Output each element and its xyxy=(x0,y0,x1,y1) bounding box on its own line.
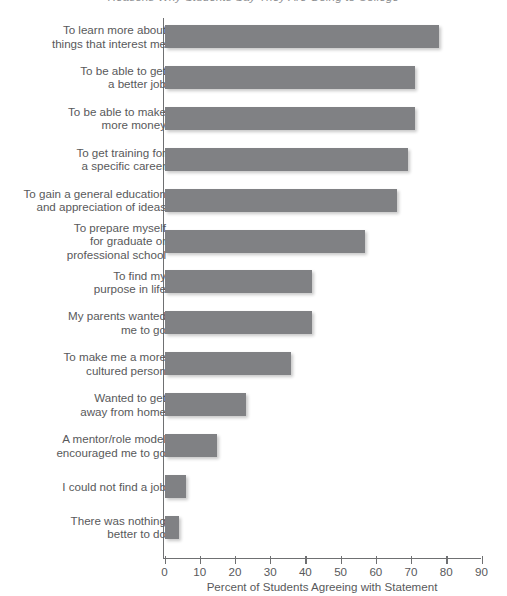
x-axis-tick xyxy=(411,556,412,564)
x-axis-tick-labels: 0102030405060708090 xyxy=(0,565,507,580)
category-label: There was nothing better to do xyxy=(0,514,166,541)
x-axis-tick-label: 0 xyxy=(145,565,185,578)
bar-row: There was nothing better to do xyxy=(0,516,507,555)
bar-row: Wanted to get away from home xyxy=(0,393,507,432)
bar xyxy=(165,434,218,457)
category-label: My parents wanted me to go xyxy=(0,309,166,336)
x-axis-tick xyxy=(376,556,377,564)
x-axis-tick xyxy=(200,556,201,564)
bar xyxy=(165,475,186,498)
bar-row: To find my purpose in life xyxy=(0,270,507,309)
x-axis-tick-label: 60 xyxy=(356,565,396,578)
category-label: Wanted to get away from home xyxy=(0,391,166,418)
category-label: A mentor/role model encouraged me to go xyxy=(0,432,166,459)
category-label: To get training for a specific career xyxy=(0,146,166,173)
bar xyxy=(165,107,415,130)
x-axis-tick-label: 10 xyxy=(180,565,220,578)
bar-row: To learn more about things that interest… xyxy=(0,25,507,64)
bar xyxy=(165,352,292,375)
bar xyxy=(165,311,313,334)
bar xyxy=(165,66,415,89)
category-label: To make me a more cultured person xyxy=(0,350,166,377)
x-axis-tick xyxy=(165,556,166,564)
x-axis-tick-label: 40 xyxy=(285,565,325,578)
bar-row: My parents wanted me to go xyxy=(0,311,507,350)
bar-row: To be able to make more money xyxy=(0,107,507,146)
bar xyxy=(165,230,366,253)
category-label: To prepare myself for graduate or profes… xyxy=(0,221,166,261)
bar xyxy=(165,189,397,212)
x-axis-tick xyxy=(235,556,236,564)
bar xyxy=(165,516,179,539)
category-label: To gain a general education and apprecia… xyxy=(0,187,166,214)
bar-row: To prepare myself for graduate or profes… xyxy=(0,230,507,269)
x-axis-tick-label: 20 xyxy=(215,565,255,578)
x-axis-tick xyxy=(270,556,271,564)
bar xyxy=(165,270,313,293)
bar xyxy=(165,148,408,171)
x-axis-tick xyxy=(341,556,342,564)
plot-area: To learn more about things that interest… xyxy=(0,0,507,596)
bar-row: A mentor/role model encouraged me to go xyxy=(0,434,507,473)
category-label: To be able to get a better job xyxy=(0,64,166,91)
category-label: To be able to make more money xyxy=(0,105,166,132)
category-label: I could not find a job xyxy=(0,480,166,493)
x-axis-tick-label: 70 xyxy=(391,565,431,578)
bar xyxy=(165,25,440,48)
x-axis-tick xyxy=(482,556,483,564)
bar-row: To make me a more cultured person xyxy=(0,352,507,391)
bar-row: I could not find a job xyxy=(0,475,507,514)
bar-row: To get training for a specific career xyxy=(0,148,507,187)
category-label: To learn more about things that interest… xyxy=(0,23,166,50)
bar-row: To be able to get a better job xyxy=(0,66,507,105)
category-label: To find my purpose in life xyxy=(0,269,166,296)
x-axis-title: Percent of Students Agreeing with Statem… xyxy=(163,580,481,593)
x-axis-tick-label: 30 xyxy=(250,565,290,578)
x-axis-tick-label: 90 xyxy=(462,565,502,578)
x-axis-tick-label: 50 xyxy=(321,565,361,578)
bar-chart: Reasons Why Students Say They Are Going … xyxy=(0,0,507,596)
x-axis-tick xyxy=(446,556,447,564)
x-axis-tick xyxy=(305,556,306,564)
x-axis-ticks xyxy=(0,556,507,565)
bar xyxy=(165,393,246,416)
x-axis-tick-label: 80 xyxy=(426,565,466,578)
